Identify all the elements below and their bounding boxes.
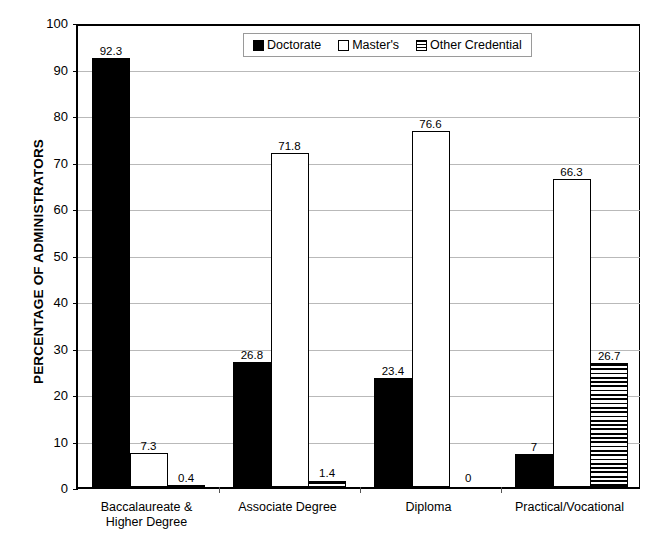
bar-doctorate-2 [374,378,412,487]
y-tick-mark [73,350,78,351]
gridline [78,71,640,72]
plot-right-border [639,24,640,487]
y-tick-label: 0 [28,482,68,495]
x-category-label-line: Practical/Vocational [499,500,640,515]
y-tick-mark [73,210,78,211]
y-tick-mark [73,489,78,490]
bar-value-label: 7.3 [119,440,179,452]
y-tick-label: 70 [28,157,68,170]
bar-doctorate-1 [233,362,271,487]
bar-doctorate-3 [515,454,553,487]
chart-legend: Doctorate Master's Other Credential [243,33,532,57]
y-tick-label: 50 [28,250,68,263]
y-tick-mark [73,24,78,25]
y-tick-label: 30 [28,343,68,356]
bar-chart: PERCENTAGE OF ADMINISTRATORS 92.326.823.… [0,0,656,543]
bar-value-label: 26.8 [222,349,282,361]
legend-item-other-credential: Other Credential [416,38,522,52]
legend-item-masters: Master's [338,38,399,52]
y-tick-mark [73,257,78,258]
legend-item-doctorate: Doctorate [253,38,321,52]
y-tick-mark [73,396,78,397]
legend-label-doctorate: Doctorate [267,38,321,52]
y-tick-mark [73,443,78,444]
y-tick-label: 90 [28,64,68,77]
plot-top-border [78,24,640,26]
legend-label-masters: Master's [352,38,399,52]
bar-value-label: 92.3 [81,45,141,57]
category-separator [219,487,220,493]
bar-doctorate-0 [92,58,130,487]
bar-value-label: 23.4 [363,365,423,377]
bar-value-label: 71.8 [260,140,320,152]
x-category-label-line: Baccalaureate & [76,500,217,515]
category-separator [501,487,502,493]
y-tick-label: 10 [28,436,68,449]
plot-area: 92.326.823.477.371.876.666.30.41.4026.7 [76,24,640,489]
y-tick-mark [73,303,78,304]
x-category-label: Baccalaureate &Higher Degree [76,500,217,530]
bar-master-s-2 [412,131,450,487]
y-tick-label: 60 [28,203,68,216]
y-tick-label: 80 [28,110,68,123]
x-category-label: Practical/Vocational [499,500,640,515]
bar-other-credential-3 [590,363,628,487]
x-category-label: Associate Degree [217,500,358,515]
bar-value-label: 26.7 [579,350,639,362]
bar-other-credential-1 [308,481,346,488]
y-tick-mark [73,164,78,165]
x-category-label-line: Higher Degree [76,515,217,530]
category-separator [360,487,361,493]
bar-value-label: 0 [438,472,498,484]
bar-value-label: 0.4 [156,472,216,484]
gridline [78,117,640,118]
y-tick-label: 40 [28,296,68,309]
gridline [78,164,640,165]
y-tick-mark [73,117,78,118]
solid-black-swatch-icon [253,40,264,51]
white-outline-swatch-icon [338,40,349,51]
y-tick-label: 100 [28,17,68,30]
bar-other-credential-0 [167,485,205,488]
bar-master-s-1 [271,153,309,487]
bar-value-label: 76.6 [401,118,461,130]
y-tick-mark [73,71,78,72]
x-category-label-line: Diploma [358,500,499,515]
bar-value-label: 7 [504,441,564,453]
x-category-label-line: Associate Degree [217,500,358,515]
legend-label-other-credential: Other Credential [430,38,522,52]
bar-value-label: 1.4 [297,467,357,479]
y-tick-label: 20 [28,389,68,402]
striped-swatch-icon [416,40,427,51]
bar-value-label: 66.3 [542,166,602,178]
x-category-label: Diploma [358,500,499,515]
